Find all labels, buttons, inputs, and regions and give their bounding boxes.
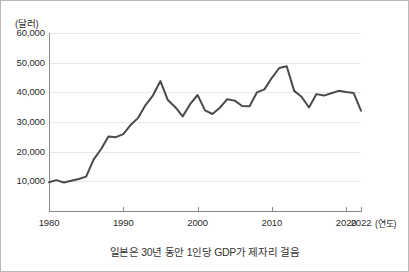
data-series-layer (1, 1, 408, 271)
chart-screenshot: (달러) 10,00020,00030,00040,00050,00060,00… (0, 0, 409, 272)
chart-caption: 일본은 30년 동안 1인당 GDP가 제자리 걸음 (1, 244, 408, 259)
chart-figure: (달러) 10,00020,00030,00040,00050,00060,00… (1, 1, 408, 271)
line-series-japan-gdp-per-capita (49, 66, 361, 182)
